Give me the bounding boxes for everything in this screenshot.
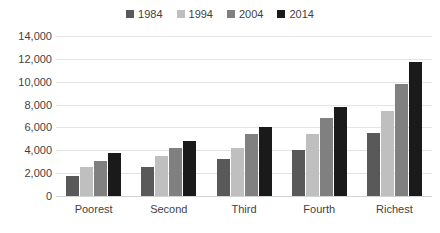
x-tick-label-second: Second bbox=[131, 198, 206, 220]
bar-second-1994[interactable] bbox=[155, 156, 168, 196]
y-tick-label: 10,000 bbox=[18, 76, 52, 87]
legend-entry-1994[interactable]: 1994 bbox=[177, 9, 213, 20]
bar-richest-2014[interactable] bbox=[409, 62, 422, 196]
legend-swatch-icon bbox=[177, 10, 185, 18]
y-tick-label: 4,000 bbox=[24, 145, 52, 156]
bar-second-2004[interactable] bbox=[169, 148, 182, 196]
bars-layer bbox=[56, 36, 432, 196]
x-axis: PoorestSecondThirdFourthRichest bbox=[56, 198, 432, 220]
bar-poorest-2004[interactable] bbox=[94, 161, 107, 196]
legend-label: 2004 bbox=[239, 9, 263, 20]
bar-fourth-1994[interactable] bbox=[306, 134, 319, 196]
bar-richest-1984[interactable] bbox=[367, 133, 380, 196]
bar-third-1984[interactable] bbox=[217, 159, 230, 196]
bar-fourth-1984[interactable] bbox=[292, 150, 305, 196]
x-tick-label-third: Third bbox=[206, 198, 281, 220]
y-tick-label: 0 bbox=[46, 191, 52, 202]
bar-poorest-1994[interactable] bbox=[80, 167, 93, 196]
y-tick-label: 2,000 bbox=[24, 168, 52, 179]
bar-second-1984[interactable] bbox=[141, 167, 154, 196]
legend-swatch-icon bbox=[227, 10, 235, 18]
bar-third-1994[interactable] bbox=[231, 148, 244, 196]
y-tick-label: 6,000 bbox=[24, 122, 52, 133]
y-tick-label: 14,000 bbox=[18, 31, 52, 42]
x-tick-label-poorest: Poorest bbox=[56, 198, 131, 220]
y-tick-label: 12,000 bbox=[18, 53, 52, 64]
bar-third-2014[interactable] bbox=[259, 127, 272, 196]
bar-group-richest bbox=[357, 36, 432, 196]
legend-label: 1994 bbox=[189, 9, 213, 20]
legend-entry-2004[interactable]: 2004 bbox=[227, 9, 263, 20]
bar-group-fourth bbox=[282, 36, 357, 196]
bar-poorest-2014[interactable] bbox=[108, 153, 121, 196]
legend-label: 2014 bbox=[289, 9, 313, 20]
bar-richest-1994[interactable] bbox=[381, 111, 394, 196]
legend-entry-2014[interactable]: 2014 bbox=[277, 9, 313, 20]
legend-entry-1984[interactable]: 1984 bbox=[126, 9, 162, 20]
axis-baseline bbox=[56, 196, 432, 197]
bar-fourth-2014[interactable] bbox=[334, 107, 347, 196]
x-tick-label-fourth: Fourth bbox=[282, 198, 357, 220]
legend-swatch-icon bbox=[126, 10, 134, 18]
bar-group-poorest bbox=[56, 36, 131, 196]
bar-second-2014[interactable] bbox=[183, 141, 196, 196]
y-tick-label: 8,000 bbox=[24, 99, 52, 110]
chart-legend: 1984199420042014 bbox=[0, 4, 440, 24]
bar-group-second bbox=[131, 36, 206, 196]
bar-chart: 1984199420042014 14,00012,00010,0008,000… bbox=[0, 0, 440, 233]
legend-swatch-icon bbox=[277, 10, 285, 18]
bar-poorest-1984[interactable] bbox=[66, 176, 79, 196]
bar-group-third bbox=[206, 36, 281, 196]
legend-label: 1984 bbox=[138, 9, 162, 20]
x-tick-label-richest: Richest bbox=[357, 198, 432, 220]
bar-richest-2004[interactable] bbox=[395, 84, 408, 196]
bar-third-2004[interactable] bbox=[245, 134, 258, 196]
y-axis: 14,00012,00010,0008,0006,0004,0002,0000 bbox=[0, 36, 52, 196]
bar-fourth-2004[interactable] bbox=[320, 118, 333, 196]
